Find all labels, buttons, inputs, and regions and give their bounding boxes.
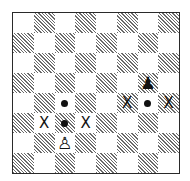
square-f7 (117, 33, 138, 53)
square-h8 (158, 13, 179, 33)
square-f8 (117, 13, 138, 33)
square-c8 (55, 13, 76, 33)
square-h1 (158, 153, 179, 173)
square-b2 (34, 133, 55, 153)
square-h4: X (158, 93, 179, 113)
x-marker-icon: X (163, 96, 173, 111)
square-g6 (138, 53, 159, 73)
square-e8 (96, 13, 117, 33)
square-d6 (75, 53, 96, 73)
square-e4 (96, 93, 117, 113)
square-a8 (13, 13, 34, 33)
square-b3: X (34, 113, 55, 133)
square-f6 (117, 53, 138, 73)
square-a4 (13, 93, 34, 113)
square-d5 (75, 73, 96, 93)
square-g4 (138, 93, 159, 113)
square-d3: X (75, 113, 96, 133)
dot-marker-icon (61, 120, 68, 127)
square-c7 (55, 33, 76, 53)
square-h7 (158, 33, 179, 53)
square-d4 (75, 93, 96, 113)
x-marker-icon: X (39, 116, 49, 131)
square-e5 (96, 73, 117, 93)
square-c4 (55, 93, 76, 113)
square-d2 (75, 133, 96, 153)
square-e7 (96, 33, 117, 53)
square-h5 (158, 73, 179, 93)
square-g3 (138, 113, 159, 133)
square-f1 (117, 153, 138, 173)
square-f2 (117, 133, 138, 153)
square-a6 (13, 53, 34, 73)
square-g2 (138, 133, 159, 153)
square-e1 (96, 153, 117, 173)
square-d1 (75, 153, 96, 173)
square-a1 (13, 153, 34, 173)
square-h6 (158, 53, 179, 73)
square-g7 (138, 33, 159, 53)
square-b5 (34, 73, 55, 93)
square-a2 (13, 133, 34, 153)
square-g1 (138, 153, 159, 173)
square-g8 (138, 13, 159, 33)
square-d7 (75, 33, 96, 53)
square-f5 (117, 73, 138, 93)
dot-marker-icon (144, 100, 151, 107)
white-pawn-icon: ♙ (57, 135, 72, 152)
square-b8 (34, 13, 55, 33)
square-e3 (96, 113, 117, 133)
x-marker-icon: X (122, 96, 132, 111)
square-c5 (55, 73, 76, 93)
square-c1 (55, 153, 76, 173)
square-h3 (158, 113, 179, 133)
square-e6 (96, 53, 117, 73)
x-marker-icon: X (80, 116, 90, 131)
square-a7 (13, 33, 34, 53)
dot-marker-icon (61, 100, 68, 107)
chessboard: ♟XXXX♙ (12, 12, 180, 174)
square-b6 (34, 53, 55, 73)
square-c3 (55, 113, 76, 133)
square-c6 (55, 53, 76, 73)
square-f3 (117, 113, 138, 133)
square-h2 (158, 133, 179, 153)
square-b1 (34, 153, 55, 173)
square-f4: X (117, 93, 138, 113)
square-c2: ♙ (55, 133, 76, 153)
black-pawn-icon: ♟ (140, 75, 155, 92)
square-a5 (13, 73, 34, 93)
square-d8 (75, 13, 96, 33)
square-b7 (34, 33, 55, 53)
square-b4 (34, 93, 55, 113)
square-g5: ♟ (138, 73, 159, 93)
square-a3 (13, 113, 34, 133)
square-e2 (96, 133, 117, 153)
